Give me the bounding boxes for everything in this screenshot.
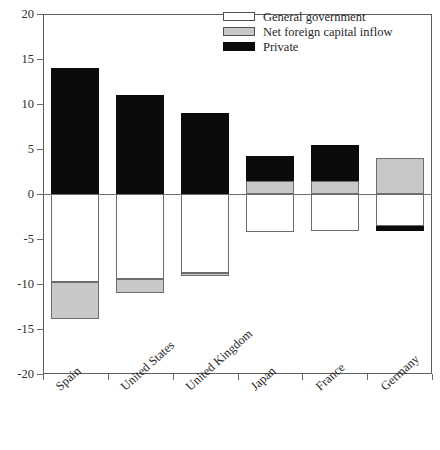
legend-label-private: Private xyxy=(263,40,298,54)
bar-segment-government xyxy=(246,194,294,232)
bar-segment-net-foreign xyxy=(376,158,424,194)
x-tick-mark xyxy=(173,374,174,380)
legend-item-private: Private xyxy=(223,39,392,54)
bar-segment-private xyxy=(376,226,424,231)
bar-segment-net-foreign xyxy=(246,181,294,194)
legend-item-net-foreign-capital-inflow: Net foreign capital inflow xyxy=(223,24,392,39)
bar-segment-government xyxy=(181,194,229,273)
black-swatch-icon xyxy=(223,42,255,51)
legend-label-general-government: General government xyxy=(263,10,365,24)
x-tick-mark xyxy=(43,374,44,380)
bar-segment-private xyxy=(311,145,359,181)
bar-segment-private xyxy=(51,68,99,194)
bar-segment-net-foreign xyxy=(51,282,99,319)
bar-segment-net-foreign xyxy=(311,181,359,194)
gray-swatch-icon xyxy=(223,27,255,36)
x-tick-mark xyxy=(432,374,433,380)
chart-legend: General government Net foreign capital i… xyxy=(223,9,392,54)
white-swatch-icon xyxy=(223,12,255,21)
bar-segment-government xyxy=(116,194,164,279)
bar-segment-government xyxy=(311,194,359,231)
bar-segment-government xyxy=(376,194,424,226)
bar-segment-net-foreign xyxy=(181,273,229,276)
x-tick-mark xyxy=(238,374,239,380)
bar-segment-private xyxy=(246,156,294,181)
x-tick-mark xyxy=(367,374,368,380)
x-tick-mark xyxy=(108,374,109,380)
bar-segment-private xyxy=(116,95,164,194)
legend-item-general-government: General government xyxy=(223,9,392,24)
bar-segment-private xyxy=(181,113,229,194)
x-tick-mark xyxy=(302,374,303,380)
legend-label-net-foreign-capital-inflow: Net foreign capital inflow xyxy=(263,25,392,39)
bar-segment-government xyxy=(51,194,99,282)
stacked-bar-chart: 20151050-5-10-15-20 SpainUnited StatesUn… xyxy=(0,0,440,450)
bar-segment-net-foreign xyxy=(116,279,164,293)
